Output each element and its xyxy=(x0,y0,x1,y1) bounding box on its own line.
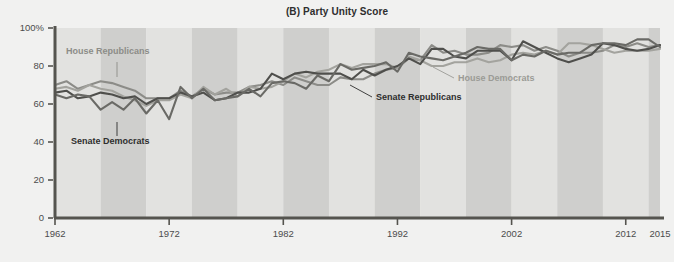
x-tick-label: 1992 xyxy=(387,228,408,239)
y-tick-label: 0 xyxy=(39,212,44,223)
term-band xyxy=(146,28,192,218)
y-tick-label: 20 xyxy=(33,174,44,185)
y-tick-label: 40 xyxy=(33,136,44,147)
y-tick-labels: 020406080100% xyxy=(20,22,53,223)
term-band xyxy=(192,28,238,218)
x-tick-label: 2012 xyxy=(615,228,636,239)
x-tick-label: 1982 xyxy=(273,228,294,239)
term-band xyxy=(55,28,101,218)
x-tick-label: 1972 xyxy=(159,228,180,239)
y-tick-label: 80 xyxy=(33,60,44,71)
term-band xyxy=(649,28,660,218)
annotation-label: Senate Democrats xyxy=(71,136,150,146)
x-tick-label: 2002 xyxy=(501,228,522,239)
term-band xyxy=(375,28,421,218)
annotation-label: House Republicans xyxy=(66,46,150,56)
term-band xyxy=(238,28,284,218)
term-band xyxy=(603,28,649,218)
x-tick-label: 1962 xyxy=(44,228,65,239)
x-tick-labels: 1962197219821992200220122015 xyxy=(44,219,670,239)
term-band xyxy=(466,28,512,218)
y-tick-label: 60 xyxy=(33,98,44,109)
term-band xyxy=(283,28,329,218)
x-tick-label: 2015 xyxy=(649,228,670,239)
y-tick-label: 100% xyxy=(20,22,45,33)
annotation-label: House Democrats xyxy=(458,73,535,83)
chart-figure: (B) Party Unity Score 020406080100% 1962… xyxy=(0,0,674,262)
term-band xyxy=(329,28,375,218)
term-band xyxy=(101,28,147,218)
party-unity-line-chart: 020406080100% 19621972198219922002201220… xyxy=(0,0,674,262)
term-band xyxy=(557,28,603,218)
annotation-label: Senate Republicans xyxy=(376,92,462,102)
